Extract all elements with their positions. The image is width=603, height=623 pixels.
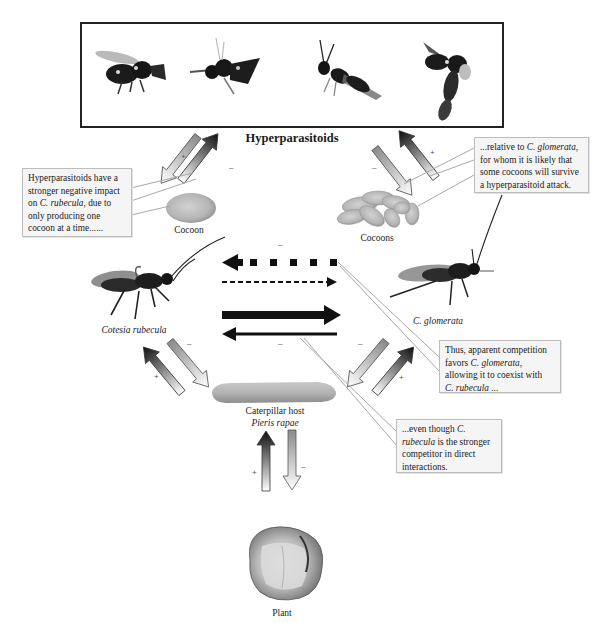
callout-text-line: favors C. glomerata, — [445, 357, 555, 370]
callout-text-line: a hyperparasitoid attack. — [480, 179, 583, 192]
text: on — [28, 198, 40, 208]
caterpillar-host-label: Caterpillar host — [246, 406, 305, 416]
callout-hyperparasitoid-impact: Hyperparasitoids have a stronger negativ… — [22, 168, 132, 237]
species-name: C. glomerata — [527, 142, 576, 152]
callout-text-line: ...even though C. — [402, 423, 496, 436]
caterpillar-icon — [212, 382, 336, 403]
cotesia-rubecula-label: Cotesia rubecula — [101, 325, 166, 335]
sign-plus: + — [252, 468, 257, 477]
callout-text-line: some cocoons will survive — [480, 166, 583, 179]
callout-text-line: interactions. — [402, 461, 496, 474]
sign-minus: – — [372, 163, 376, 172]
pieris-rapae-label: Pieris rapae — [251, 418, 298, 428]
callout-apparent-competition: Thus, apparent competition favors C. glo… — [439, 340, 561, 393]
callout-text-line: Thus, apparent competition — [445, 344, 555, 357]
cocoon-icon — [166, 193, 216, 223]
callout-relative-to-glomerata: ...relative to C. glomerata, for whom it… — [474, 137, 589, 193]
callout-text-line: Hyperparasitoids have a — [28, 172, 126, 185]
callout-text-line: allowing it to coexist with — [445, 369, 555, 382]
callout-text-line: ...relative to C. glomerata, — [480, 141, 583, 154]
sign-minus: – — [301, 462, 305, 471]
text: is the stronger — [435, 437, 490, 447]
sign-plus: + — [430, 148, 435, 157]
text: ...even though — [402, 424, 457, 434]
c-glomerata-label: C. glomerata — [413, 316, 463, 326]
cocoon-label: Cocoon — [174, 225, 204, 235]
callout-text-line: rubecula is the stronger — [402, 436, 496, 449]
callout-text-line: on C. rubecula, due to — [28, 197, 126, 210]
text: , — [576, 142, 578, 152]
sign-plus: + — [154, 372, 159, 381]
text: ... — [489, 383, 498, 393]
sign-minus: – — [229, 163, 233, 172]
arrow-plus-plant-to-caterpillar — [257, 431, 275, 491]
sign-plus: + — [181, 152, 186, 161]
arrow-minus-caterpillar-to-plant — [283, 430, 301, 490]
cocoons-label: Cocoons — [360, 233, 393, 243]
callout-text-line: cocoon at a time...... — [28, 222, 126, 235]
callout-text-line: competitor in direct — [402, 448, 496, 461]
interaction-dashed-rubecula-to-glomerata — [222, 277, 337, 287]
callout-stronger-competitor: ...even though C. rubecula is the strong… — [396, 419, 502, 473]
callout-text-line: for whom it is likely that — [480, 154, 583, 167]
callout-text-line: only producing one — [28, 210, 126, 223]
sign-plus: + — [399, 373, 404, 382]
cabbage-plant-icon — [249, 527, 322, 600]
species-name: rubecula — [402, 437, 435, 447]
species-name: C. — [457, 424, 466, 434]
sign-minus: – — [278, 240, 282, 249]
species-name: C. rubecula — [445, 383, 489, 393]
interaction-dotted-glomerata-to-rubecula — [222, 254, 337, 271]
text: ...relative to — [480, 142, 527, 152]
text: , — [520, 358, 522, 368]
cocoons-cluster-icon — [336, 191, 419, 231]
text: favors — [445, 358, 471, 368]
sign-minus: – — [187, 339, 191, 348]
sign-minus: – — [358, 339, 362, 348]
hyperparasitoids-title: Hyperparasitoids — [245, 131, 338, 146]
plant-label: Plant — [272, 608, 292, 618]
interaction-thick-rubecula-to-glomerata — [222, 305, 341, 325]
callout-text-line: C. rubecula ... — [445, 382, 555, 395]
species-name: C. glomerata — [471, 358, 520, 368]
cotesia-rubecula-wasp-icon — [90, 237, 225, 319]
sign-minus: – — [278, 339, 282, 348]
callout-text-line: stronger negative impact — [28, 185, 126, 198]
species-name: C. rubecula — [40, 198, 84, 208]
text: , due to — [84, 198, 112, 208]
hyperparasitoids-image-frame — [80, 22, 504, 128]
